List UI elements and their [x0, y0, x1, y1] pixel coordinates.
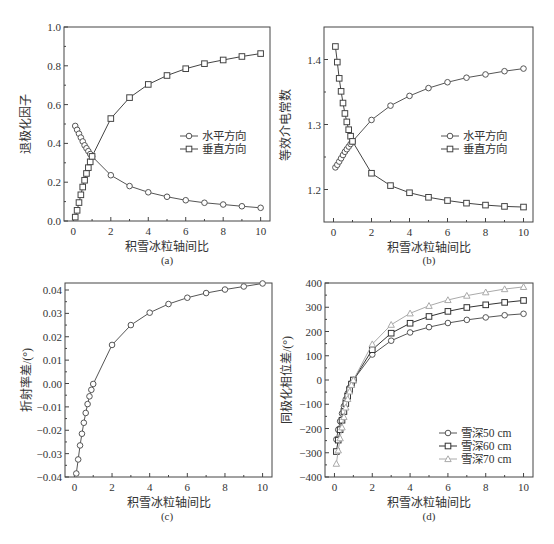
caption-a: (a): [147, 254, 187, 266]
data-point-circle: [388, 103, 394, 109]
legend-label: 垂直方向: [202, 142, 246, 155]
data-point-circle: [109, 342, 115, 348]
data-point-circle: [183, 197, 189, 203]
data-point-triangle: [388, 322, 394, 328]
y-tick-label: −0.01: [37, 401, 62, 413]
x-tick-label: 8: [220, 225, 226, 237]
legend: 水平方向垂直方向: [441, 129, 507, 155]
legend-label: 水平方向: [463, 129, 507, 142]
x-axis-label: 积雪冰粒轴间比: [125, 239, 209, 254]
y-tick-label: 0.4: [47, 137, 61, 149]
data-point-circle: [81, 420, 87, 426]
y-tick-label: 0.6: [47, 99, 61, 111]
caption-c: (c): [147, 510, 187, 522]
y-tick-label: 1.2: [307, 184, 321, 196]
data-point-circle: [147, 310, 153, 316]
data-point-circle: [108, 172, 114, 178]
data-point-circle: [241, 284, 247, 290]
data-point-square: [502, 204, 508, 210]
data-point-circle: [73, 471, 79, 477]
data-point-square: [388, 183, 394, 189]
data-point-square: [127, 95, 133, 101]
x-tick-label: 4: [147, 481, 153, 493]
y-tick-label: 0.00: [43, 378, 63, 390]
legend-label: 雪深70 cm: [461, 452, 511, 465]
series-square: [333, 44, 527, 210]
caption-b: (b): [409, 254, 449, 266]
y-tick-label: 0.01: [43, 354, 62, 366]
y-tick-label: 0.03: [43, 307, 63, 319]
plot-frame: [324, 27, 533, 222]
data-point-circle: [502, 312, 508, 318]
data-point-circle: [164, 194, 170, 200]
y-tick-label: −100: [299, 398, 322, 410]
x-tick-label: 0: [331, 226, 337, 238]
chart-panel-c: 0246810−0.04−0.03−0.02−0.010.000.010.020…: [0, 272, 277, 544]
data-point-square: [164, 73, 170, 79]
data-point-circle: [75, 457, 81, 463]
data-point-circle: [89, 387, 95, 393]
y-tick-label: 0.02: [43, 331, 62, 343]
y-tick-label: 1.0: [47, 21, 61, 33]
y-tick-label: −400: [299, 471, 322, 483]
data-point-square: [87, 159, 93, 165]
series-circle: [73, 281, 265, 477]
series-circle: [334, 311, 527, 442]
y-tick-label: 1.4: [307, 54, 321, 66]
x-tick-label: 0: [71, 225, 77, 237]
x-tick-label: 10: [518, 226, 530, 238]
data-point-circle: [85, 401, 91, 407]
data-point-square: [340, 100, 346, 106]
data-point-circle: [90, 381, 96, 387]
legend-marker-square: [445, 443, 451, 449]
data-point-circle: [521, 311, 527, 317]
data-point-square: [521, 204, 527, 210]
data-point-circle: [185, 295, 191, 301]
data-point-square: [82, 177, 88, 183]
data-point-square: [86, 165, 92, 171]
y-tick-label: 1.3: [307, 119, 321, 131]
x-tick-label: 0: [72, 481, 78, 493]
y-tick-label: 0: [317, 374, 323, 386]
chart-c-svg: 0246810−0.04−0.03−0.02−0.010.000.010.020…: [0, 272, 277, 544]
data-point-square: [336, 76, 342, 82]
x-tick-label: 4: [407, 481, 413, 493]
data-point-square: [346, 127, 352, 133]
data-point-square: [183, 66, 189, 72]
data-point-square: [407, 190, 413, 196]
data-point-circle: [483, 72, 489, 78]
data-point-circle: [83, 410, 89, 416]
x-tick-label: 8: [222, 481, 228, 493]
data-point-square: [344, 119, 350, 125]
y-tick-label: −0.02: [37, 424, 62, 436]
legend-marker-circle: [186, 133, 192, 139]
data-point-square: [426, 314, 432, 320]
series-line: [336, 314, 523, 440]
legend-label: 水平方向: [202, 129, 246, 142]
data-point-circle: [426, 85, 432, 91]
data-point-circle: [128, 322, 134, 328]
y-tick-label: 0.0: [47, 215, 61, 227]
chart-d-svg: 0246810−400−300−200−1000100200300400积雪冰粒…: [277, 272, 554, 544]
data-point-square: [145, 82, 151, 88]
x-tick-label: 2: [109, 481, 115, 493]
legend-label: 雪深60 cm: [461, 439, 511, 452]
data-point-square: [202, 61, 208, 67]
x-tick-label: 6: [183, 225, 189, 237]
y-tick-label: 200: [306, 326, 323, 338]
data-point-square: [369, 170, 375, 176]
data-point-square: [407, 320, 413, 326]
data-point-triangle: [520, 284, 526, 290]
data-point-square: [342, 111, 348, 117]
data-point-circle: [258, 205, 264, 211]
data-point-circle: [79, 431, 85, 437]
y-tick-label: 100: [306, 350, 323, 362]
x-tick-label: 4: [146, 225, 152, 237]
data-point-square: [350, 139, 356, 145]
data-point-circle: [407, 330, 413, 336]
y-tick-label: −0.03: [37, 448, 63, 460]
data-point-circle: [203, 290, 209, 296]
data-point-circle: [87, 394, 93, 400]
legend: 雪深50 cm雪深60 cm雪深70 cm: [439, 426, 511, 465]
data-point-circle: [445, 79, 451, 85]
